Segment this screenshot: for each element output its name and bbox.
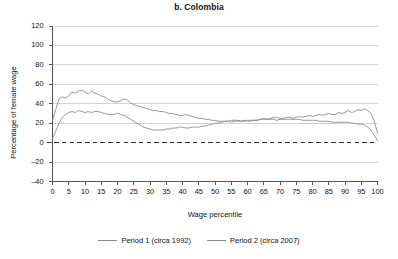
legend-line-swatch-period-2	[207, 240, 226, 241]
series-line-1	[53, 90, 378, 133]
y-tick-label: 40	[14, 99, 44, 108]
legend-label-period-2: Period 2 (circa 2007)	[230, 236, 300, 245]
y-tick-label: 100	[14, 40, 44, 49]
axis-ticks	[49, 26, 378, 185]
legend-label-period-1: Period 1 (circa 1992)	[121, 236, 191, 245]
gridlines	[53, 26, 378, 182]
chart-figure: b. Colombia Percentage of female wage Wa…	[0, 0, 398, 259]
y-tick-label: 0	[14, 138, 44, 147]
y-tick-label: 80	[14, 60, 44, 69]
x-tick-label: 100	[366, 187, 390, 196]
chart-legend: Period 1 (circa 1992) Period 2 (circa 20…	[0, 236, 398, 245]
series-line-2	[53, 111, 378, 141]
y-tick-label: 120	[14, 21, 44, 30]
legend-item-period-1: Period 1 (circa 1992)	[98, 236, 191, 245]
legend-line-swatch-period-1	[98, 240, 117, 241]
y-tick-label: –40	[14, 177, 44, 186]
y-tick-label: 20	[14, 118, 44, 127]
data-series-group	[53, 90, 378, 141]
y-tick-label: –20	[14, 157, 44, 166]
plot-area	[0, 0, 398, 259]
y-tick-label: 60	[14, 79, 44, 88]
legend-item-period-2: Period 2 (circa 2007)	[207, 236, 300, 245]
